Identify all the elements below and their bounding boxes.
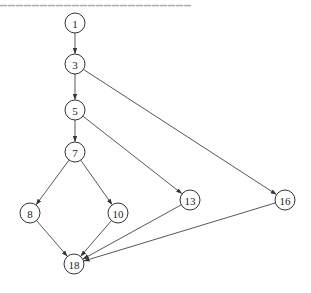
node-label: 18 bbox=[69, 259, 81, 271]
node-label: 3 bbox=[72, 59, 78, 71]
edge-10-to-18 bbox=[81, 221, 112, 256]
node-10: 10 bbox=[108, 203, 128, 223]
nodes-layer: 1357810131618 bbox=[20, 13, 295, 274]
node-label: 7 bbox=[72, 147, 78, 159]
edge-7-to-8 bbox=[36, 160, 69, 205]
node-label: 1 bbox=[72, 18, 78, 30]
node-16: 16 bbox=[275, 190, 295, 210]
edge-8-to-18 bbox=[37, 221, 68, 256]
node-label: 16 bbox=[280, 195, 292, 207]
node-label: 8 bbox=[27, 208, 33, 220]
edge-5-to-13 bbox=[83, 116, 182, 193]
node-label: 13 bbox=[185, 195, 197, 207]
edge-7-to-10 bbox=[81, 160, 112, 204]
node-3: 3 bbox=[65, 54, 85, 74]
node-label: 5 bbox=[72, 105, 78, 117]
node-7: 7 bbox=[65, 142, 85, 162]
node-13: 13 bbox=[180, 190, 200, 210]
node-8: 8 bbox=[20, 203, 40, 223]
node-18: 18 bbox=[64, 254, 84, 274]
node-1: 1 bbox=[65, 13, 85, 33]
node-label: 10 bbox=[113, 208, 125, 220]
control-flow-graph: 1357810131618 bbox=[0, 0, 311, 293]
node-5: 5 bbox=[65, 100, 85, 120]
edge-3-to-16 bbox=[83, 69, 276, 194]
edge-13-to-18 bbox=[83, 205, 181, 259]
